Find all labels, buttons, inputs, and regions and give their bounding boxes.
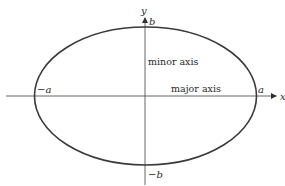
- vertex-pos-b-label: b: [149, 16, 155, 27]
- x-axis-label: x: [280, 91, 285, 102]
- vertex-neg-a-label: −a: [37, 84, 51, 95]
- vertex-pos-a-label: a: [258, 84, 264, 95]
- vertex-neg-b-label: −b: [148, 169, 163, 180]
- ellipse-diagram: y x b −b −a a minor axis major axis: [0, 0, 285, 186]
- major-axis-label: major axis: [171, 83, 221, 94]
- minor-axis-label: minor axis: [148, 56, 199, 67]
- y-axis-label: y: [140, 5, 147, 16]
